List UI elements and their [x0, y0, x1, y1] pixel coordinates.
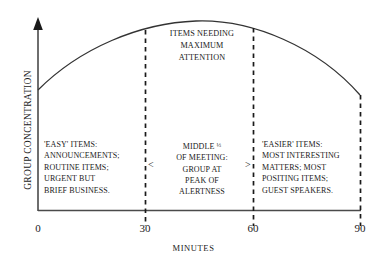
- annotation-last-third: 'EASIER' ITEMS: MOST INTERESTING MATTERS…: [262, 139, 372, 196]
- annotation-middle-third: MIDDLE ⅓ OF MEETING: GROUP AT PEAK OF AL…: [158, 139, 246, 198]
- annotation-middle-prefix: MIDDLE: [183, 142, 217, 151]
- x-axis-title: MINUTES: [0, 243, 387, 253]
- annotation-line: ATTENTION: [148, 52, 256, 64]
- x-tick-60: 60: [238, 222, 268, 234]
- annotation-maximum-attention: ITEMS NEEDING MAXIMUM ATTENTION: [148, 28, 256, 63]
- annotation-line: ROUTINE ITEMS;: [44, 162, 144, 173]
- annotation-line: GROUP AT: [158, 164, 246, 175]
- annotation-line: MOST INTERESTING: [262, 150, 372, 161]
- right-chevron-icon: >: [245, 159, 251, 170]
- annotation-line: 'EASIER' ITEMS:: [262, 139, 372, 150]
- annotation-line: URGENT BUT: [44, 173, 144, 184]
- annotation-line: MAXIMUM: [148, 40, 256, 52]
- annotation-line-middle-fraction: MIDDLE ⅓: [158, 139, 246, 152]
- y-axis-title: GROUP CONCENTRATION: [23, 45, 33, 215]
- annotation-line: ANNOUNCEMENTS;: [44, 150, 144, 161]
- x-tick-30: 30: [130, 222, 160, 234]
- annotation-line: ALERTNESS: [158, 186, 246, 197]
- y-axis-arrow-icon: [33, 17, 43, 30]
- annotation-line: GUEST SPEAKERS.: [262, 185, 372, 196]
- annotation-line: OF MEETING:: [158, 152, 246, 163]
- concentration-curve-figure: GROUP CONCENTRATION 0 30 60 90 MINUTES I…: [0, 0, 387, 268]
- annotation-line: MATTERS; MOST: [262, 162, 372, 173]
- annotation-line: PEAK OF: [158, 175, 246, 186]
- annotation-first-third: 'EASY' ITEMS: ANNOUNCEMENTS; ROUTINE ITE…: [44, 139, 144, 196]
- x-tick-0: 0: [23, 222, 53, 234]
- annotation-line: 'EASY' ITEMS:: [44, 139, 144, 150]
- one-third-fraction: ⅓: [217, 141, 222, 148]
- annotation-line: ITEMS NEEDING: [148, 28, 256, 40]
- left-chevron-icon: <: [148, 159, 154, 170]
- annotation-line: BRIEF BUSINESS.: [44, 185, 144, 196]
- x-tick-90: 90: [345, 222, 375, 234]
- annotation-line: POSITING ITEMS;: [262, 173, 372, 184]
